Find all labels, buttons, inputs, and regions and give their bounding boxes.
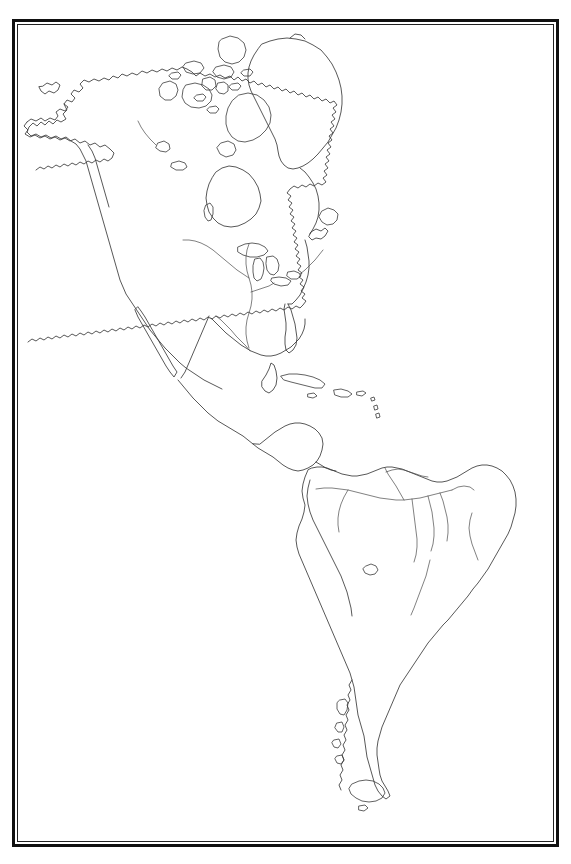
arctic-islet-e bbox=[241, 69, 253, 76]
madeira-tributary bbox=[412, 499, 417, 562]
rio-grande-river bbox=[216, 316, 250, 351]
arctic-islet-a bbox=[169, 72, 181, 79]
gulf-of-california-east-shore bbox=[181, 316, 209, 378]
cape-horn-islet bbox=[359, 805, 368, 811]
mackenzie-river bbox=[138, 121, 156, 145]
tierra-del-fuego-island bbox=[349, 780, 385, 802]
lesser-antilles-a bbox=[371, 397, 375, 401]
jamaica-island bbox=[308, 393, 317, 398]
great-lakes-michigan bbox=[253, 258, 264, 281]
parana-river bbox=[411, 560, 430, 615]
great-slave-lake bbox=[171, 161, 187, 170]
labrador-coast bbox=[300, 168, 319, 234]
cuba-island bbox=[281, 374, 325, 388]
caribbean-group bbox=[281, 374, 380, 418]
ohio-river bbox=[251, 283, 274, 292]
seward-peninsula bbox=[39, 82, 60, 94]
orinoco-river bbox=[386, 469, 428, 477]
frame-outer-rule bbox=[14, 21, 558, 846]
xingu-tributary bbox=[440, 493, 448, 541]
florida-peninsula bbox=[284, 304, 297, 353]
newfoundland-island bbox=[319, 208, 338, 225]
lake-winnipeg bbox=[204, 203, 213, 221]
americas-outline-map bbox=[0, 0, 571, 864]
lesser-antilles-c bbox=[376, 413, 380, 418]
southampton-island bbox=[217, 141, 236, 157]
patagonia-islands-a bbox=[335, 722, 344, 732]
atlantic-coast-usa bbox=[288, 240, 309, 304]
alaska-coastline bbox=[24, 122, 114, 170]
great-lakes-superior bbox=[238, 243, 268, 257]
hispaniola-island bbox=[334, 389, 352, 397]
great-lakes-ontario bbox=[287, 271, 301, 279]
amazon-mouth-delta bbox=[452, 486, 474, 490]
tapajos-tributary bbox=[428, 496, 434, 551]
banks-island bbox=[159, 81, 178, 100]
yucatan-peninsula bbox=[262, 363, 277, 393]
arctic-islet-b bbox=[194, 94, 206, 101]
amazon-river-main bbox=[316, 488, 452, 500]
central-america-isthmus bbox=[253, 423, 323, 471]
great-lakes-erie bbox=[271, 277, 291, 286]
mississippi-river bbox=[246, 244, 252, 348]
great-bear-lake bbox=[156, 141, 170, 152]
hudson-bay-outline bbox=[206, 166, 261, 227]
nova-scotia-coast bbox=[309, 228, 328, 240]
arctic-islet-d bbox=[229, 83, 241, 90]
panama-canal-narrows bbox=[316, 462, 336, 471]
arctic-islet-c bbox=[207, 106, 219, 113]
melville-island bbox=[183, 61, 204, 74]
prince-of-wales-island bbox=[202, 77, 216, 90]
south-america-coastline bbox=[296, 465, 516, 799]
south-america-group bbox=[296, 465, 516, 811]
somerset-island bbox=[216, 82, 228, 94]
frame-inner-rule bbox=[18, 25, 554, 842]
north-america-group bbox=[24, 67, 338, 444]
great-lakes-huron bbox=[266, 256, 279, 275]
chile-fjord-coast bbox=[339, 680, 352, 790]
alaska-panhandle-coast bbox=[88, 145, 109, 207]
map-frame bbox=[0, 0, 571, 864]
solimoes-upper-amazon bbox=[338, 490, 348, 532]
lake-titicaca bbox=[363, 564, 378, 575]
central-america-group bbox=[253, 363, 336, 471]
puerto-rico-island bbox=[357, 391, 366, 396]
st-lawrence-seaway bbox=[300, 250, 323, 274]
missouri-river bbox=[183, 240, 249, 278]
rio-negro-tributary bbox=[385, 468, 404, 500]
north-america-mainland-coastline bbox=[27, 67, 337, 342]
map-page bbox=[0, 0, 571, 864]
north-america-west-coast bbox=[27, 104, 222, 389]
chiloe-island bbox=[337, 699, 348, 715]
ellesmere-island bbox=[218, 36, 246, 64]
sao-francisco-river bbox=[469, 513, 478, 560]
andes-west-coast-peru bbox=[307, 480, 352, 616]
lesser-antilles-b bbox=[374, 405, 378, 410]
mexico-west-coast bbox=[178, 380, 253, 444]
patagonia-islands-b bbox=[332, 739, 341, 748]
